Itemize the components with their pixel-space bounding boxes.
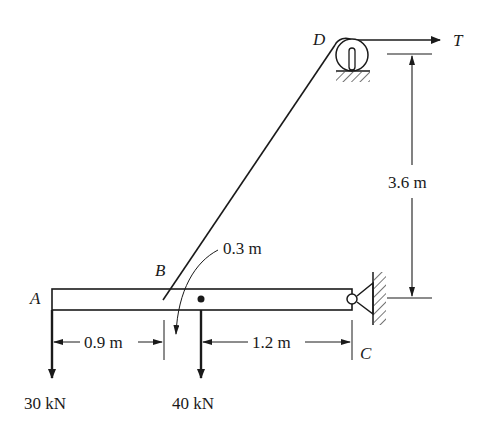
point-label-a: A bbox=[30, 290, 40, 307]
point-label-d: D bbox=[313, 31, 325, 48]
dimension-right-label: 1.2 m bbox=[252, 334, 291, 351]
dimension-vertical-label: 3.6 m bbox=[388, 174, 427, 191]
dimension-left-label: 0.9 m bbox=[84, 334, 123, 351]
tension-label: T bbox=[453, 32, 462, 49]
beam-diagram bbox=[0, 0, 489, 436]
pin-support-c bbox=[347, 272, 386, 325]
pulley-d bbox=[336, 39, 370, 82]
dimension-offset bbox=[176, 250, 218, 334]
point-label-c: C bbox=[360, 345, 371, 362]
load-label-40kn: 40 kN bbox=[172, 395, 214, 412]
load-point-dot bbox=[198, 296, 205, 303]
point-label-b: B bbox=[155, 262, 165, 279]
dimension-offset-label: 0.3 m bbox=[223, 240, 262, 257]
cable bbox=[163, 38, 440, 300]
load-label-30kn: 30 kN bbox=[24, 395, 66, 412]
